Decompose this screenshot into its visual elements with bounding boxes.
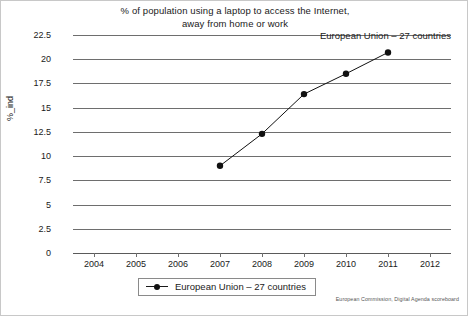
plot-area: 02.557.51012.51517.52022.520042005200620… <box>73 35 451 253</box>
data-point-marker[interactable] <box>301 91 307 97</box>
y-axis-tick-label: 10 <box>0 151 51 161</box>
x-axis-tick-label: 2008 <box>240 259 284 269</box>
chart-legend[interactable]: European Union – 27 countries <box>138 278 316 296</box>
series-layer <box>73 35 451 253</box>
chart-container: % of population using a laptop to access… <box>0 0 468 316</box>
y-axis-tick-label: 7.5 <box>0 175 51 185</box>
x-axis-tick-label: 2012 <box>408 259 452 269</box>
x-axis-tick-mark <box>178 253 179 257</box>
y-axis-tick-label: 5 <box>0 200 51 210</box>
x-axis-tick-label: 2005 <box>114 259 158 269</box>
x-axis-tick-label: 2004 <box>72 259 116 269</box>
legend-item-label: European Union – 27 countries <box>175 281 306 292</box>
series-line <box>220 52 388 165</box>
x-axis-tick-label: 2006 <box>156 259 200 269</box>
x-axis-tick-mark <box>220 253 221 257</box>
y-axis-tick-label: 0 <box>0 248 51 258</box>
x-axis-tick-label: 2007 <box>198 259 242 269</box>
x-axis-tick-mark <box>94 253 95 257</box>
x-axis-tick-label: 2011 <box>366 259 410 269</box>
series-annotation-label: European Union – 27 countries <box>320 30 451 41</box>
x-axis-tick-mark <box>304 253 305 257</box>
y-axis-tick-label: 12.5 <box>0 127 51 137</box>
chart-title-line-2: away from home or work <box>1 18 468 31</box>
y-axis-tick-label: 15 <box>0 103 51 113</box>
x-axis-tick-mark <box>262 253 263 257</box>
x-axis-tick-mark <box>346 253 347 257</box>
chart-title: % of population using a laptop to access… <box>1 5 468 30</box>
x-axis-tick-mark <box>136 253 137 257</box>
y-axis-tick-label: 20 <box>0 54 51 64</box>
data-point-marker[interactable] <box>343 71 349 77</box>
x-axis-tick-mark <box>388 253 389 257</box>
source-note: European Commission, Digital Agenda scor… <box>336 296 459 302</box>
data-point-marker[interactable] <box>385 49 391 55</box>
legend-line-dot-marker-icon <box>146 282 168 291</box>
chart-title-line-1: % of population using a laptop to access… <box>121 5 350 16</box>
x-axis-tick-mark <box>430 253 431 257</box>
y-axis-tick-label: 2.5 <box>0 224 51 234</box>
x-axis-tick-label: 2010 <box>324 259 368 269</box>
data-point-marker[interactable] <box>259 131 265 137</box>
y-axis-tick-label: 22.5 <box>0 30 51 40</box>
x-axis-tick-label: 2009 <box>282 259 326 269</box>
y-axis-tick-label: 17.5 <box>0 78 51 88</box>
data-point-marker[interactable] <box>217 163 223 169</box>
